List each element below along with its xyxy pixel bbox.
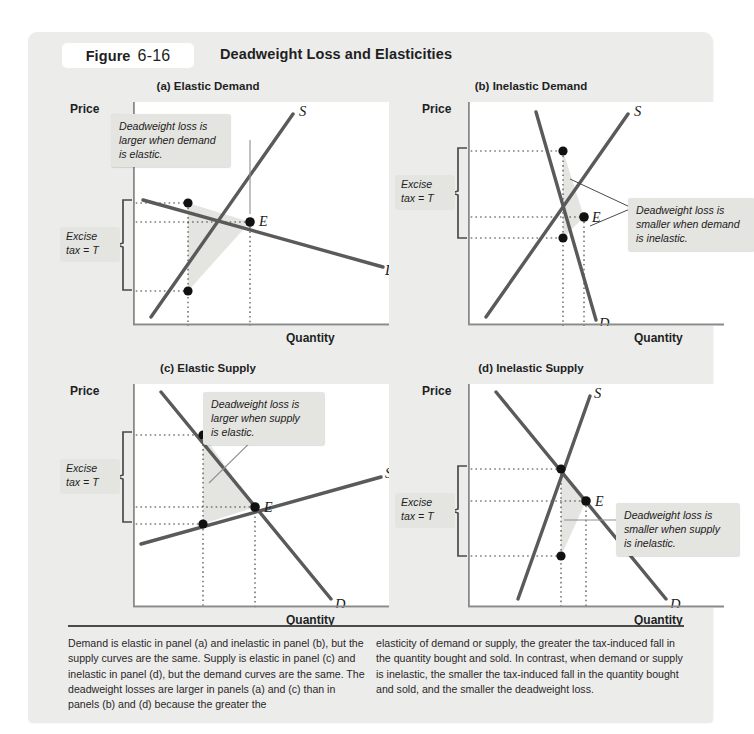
panel-b-equilibrium-label: E bbox=[591, 210, 601, 225]
panel-a-supply-label: S bbox=[299, 103, 307, 119]
panel-a-quantity-axis-label: Quantity bbox=[286, 331, 335, 345]
panel-c-elastic-supply: (c) Elastic Supply Price Quantity bbox=[58, 362, 378, 630]
panel-b-supply-label: S bbox=[634, 103, 642, 119]
panel-b-seller-price-point bbox=[558, 233, 567, 242]
panel-b-callout: Deadweight loss is smaller when demand i… bbox=[628, 198, 754, 251]
panel-a-elastic-demand: (a) Elastic Demand Price Quantity bbox=[58, 80, 378, 348]
caption-right-column: elasticity of demand or supply, the grea… bbox=[376, 636, 684, 697]
figure-container: Figure 6-16 Deadweight Loss and Elastici… bbox=[28, 32, 712, 722]
panel-b-price-axis-label: Price bbox=[422, 102, 451, 116]
panel-b-inelastic-demand: (b) Inelastic Demand Price Quantity bbox=[376, 80, 706, 348]
panel-b-title: (b) Inelastic Demand bbox=[376, 80, 686, 92]
caption-left-column: Demand is elastic in panel (a) and inela… bbox=[68, 636, 368, 713]
figure-title: Deadweight Loss and Elasticities bbox=[220, 46, 452, 62]
figure-label-number: 6-16 bbox=[138, 47, 171, 65]
panel-d-buyer-price-point bbox=[556, 464, 565, 473]
panel-d-seller-price-point bbox=[556, 551, 565, 560]
panel-c-excise-tax-label: Excise tax = T bbox=[60, 459, 120, 494]
panel-a-title: (a) Elastic Demand bbox=[58, 80, 358, 92]
panel-d-equilibrium-point bbox=[581, 496, 591, 506]
panel-d-title: (d) Inelastic Supply bbox=[376, 362, 686, 374]
panel-a-equilibrium-point bbox=[245, 217, 255, 227]
panel-d-plot-svg: S D E bbox=[468, 384, 724, 608]
panel-d-callout: Deadweight loss is smaller when supply i… bbox=[616, 503, 739, 556]
panel-a-excise-tax-label: Excise tax = T bbox=[60, 227, 120, 262]
panel-d-plot: S D E bbox=[468, 384, 724, 608]
panel-a-callout: Deadweight loss is larger when demand is… bbox=[111, 114, 230, 167]
figure-label-word: Figure bbox=[86, 48, 131, 64]
panel-d-equilibrium-label: E bbox=[594, 494, 604, 509]
panel-d-inelastic-supply: (d) Inelastic Supply Price Quantity bbox=[376, 362, 706, 630]
panel-b-excise-tax-label: Excise tax = T bbox=[395, 175, 455, 210]
panel-b-quantity-axis-label: Quantity bbox=[634, 331, 683, 345]
caption-divider bbox=[68, 625, 684, 627]
panel-a-equilibrium-label: E bbox=[258, 214, 268, 229]
panel-d-excise-tax-label: Excise tax = T bbox=[395, 493, 455, 528]
panel-a-buyer-price-point bbox=[183, 198, 192, 207]
panel-a-price-axis-label: Price bbox=[70, 102, 99, 116]
panel-b-buyer-price-point bbox=[558, 146, 567, 155]
panel-d-supply-label: S bbox=[594, 385, 602, 401]
panel-c-title: (c) Elastic Supply bbox=[58, 362, 358, 374]
panel-c-callout: Deadweight loss is larger when supply is… bbox=[203, 392, 324, 445]
panel-c-equilibrium-label: E bbox=[263, 500, 273, 515]
panel-b-equilibrium-point bbox=[579, 212, 589, 222]
panel-c-equilibrium-point bbox=[250, 502, 260, 512]
panel-c-seller-price-point bbox=[198, 519, 207, 528]
panel-c-price-axis-label: Price bbox=[70, 384, 99, 398]
panel-a-seller-price-point bbox=[183, 286, 192, 295]
figure-label-pill: Figure 6-16 bbox=[62, 43, 194, 68]
panel-d-price-axis-label: Price bbox=[422, 384, 451, 398]
